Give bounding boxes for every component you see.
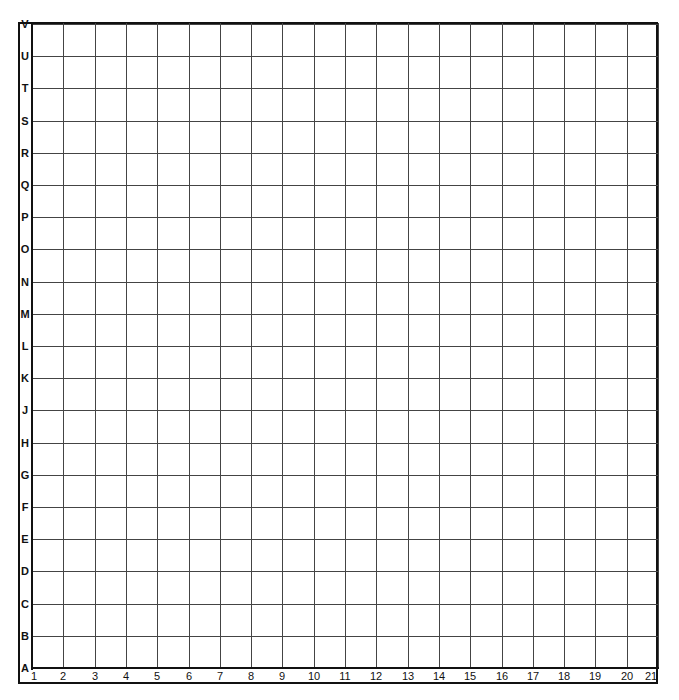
horizontal-gridline [33, 24, 658, 25]
row-label: O [19, 243, 31, 255]
horizontal-gridline [33, 346, 658, 347]
row-label: T [19, 82, 31, 94]
column-label: 9 [272, 670, 292, 682]
column-label: 6 [179, 670, 199, 682]
horizontal-gridline [33, 571, 658, 572]
horizontal-gridline [33, 507, 658, 508]
row-label: R [19, 147, 31, 159]
column-label: 15 [460, 670, 480, 682]
coordinate-grid-board: VUTSRQPONMLKJHGFEDCBA 123456789101112131… [0, 0, 679, 700]
row-label: P [19, 211, 31, 223]
horizontal-gridline [33, 604, 658, 605]
vertical-axis [31, 22, 33, 670]
column-label: 13 [398, 670, 418, 682]
column-label: 16 [492, 670, 512, 682]
horizontal-gridline [33, 121, 658, 122]
column-label: 19 [585, 670, 605, 682]
row-label: D [19, 565, 31, 577]
column-label: 17 [523, 670, 543, 682]
horizontal-gridline [33, 378, 658, 379]
column-label: 21 [641, 670, 661, 682]
horizontal-gridline [33, 88, 658, 89]
column-label: 3 [85, 670, 105, 682]
column-label: 2 [53, 670, 73, 682]
row-label: B [19, 630, 31, 642]
row-label: L [19, 340, 31, 352]
horizontal-gridline [33, 282, 658, 283]
column-label: 10 [304, 670, 324, 682]
horizontal-gridline [33, 217, 658, 218]
horizontal-gridline [33, 314, 658, 315]
horizontal-gridline [33, 249, 658, 250]
row-label: K [19, 372, 31, 384]
row-label: N [19, 276, 31, 288]
row-label: F [19, 501, 31, 513]
column-label: 1 [24, 670, 44, 682]
horizontal-gridline [33, 153, 658, 154]
row-label: V [19, 18, 31, 30]
horizontal-gridline [33, 56, 658, 57]
horizontal-gridline [33, 410, 658, 411]
row-label: G [19, 469, 31, 481]
column-label: 8 [241, 670, 261, 682]
column-label: 12 [366, 670, 386, 682]
row-label: E [19, 533, 31, 545]
row-label: J [19, 404, 31, 416]
column-label: 18 [554, 670, 574, 682]
horizontal-gridline [33, 185, 658, 186]
row-label: U [19, 50, 31, 62]
horizontal-axis [31, 667, 659, 669]
row-label: M [19, 308, 31, 320]
vertical-gridline [658, 23, 659, 668]
column-label: 4 [116, 670, 136, 682]
horizontal-gridline [33, 636, 658, 637]
horizontal-gridline [33, 475, 658, 476]
horizontal-gridline [33, 539, 658, 540]
column-label: 7 [210, 670, 230, 682]
column-label: 14 [429, 670, 449, 682]
column-label: 11 [335, 670, 355, 682]
row-label: H [19, 437, 31, 449]
horizontal-gridline [33, 443, 658, 444]
row-label: C [19, 598, 31, 610]
row-label: S [19, 115, 31, 127]
column-label: 20 [617, 670, 637, 682]
column-label: 5 [147, 670, 167, 682]
row-label: Q [19, 179, 31, 191]
